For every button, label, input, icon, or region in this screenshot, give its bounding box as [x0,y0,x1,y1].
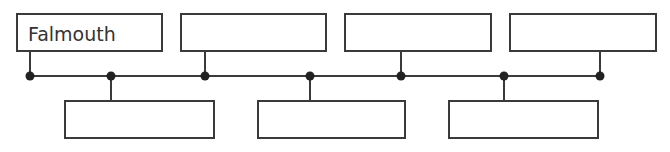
timeline-dot [397,72,406,81]
top-box-3 [344,13,492,52]
bottom-box-1 [64,100,215,139]
bottom-box-3 [448,100,599,139]
bottom-box-2 [257,100,406,139]
box-label: Falmouth [28,23,116,45]
timeline-dot [201,72,210,81]
timeline-dot [306,72,315,81]
timeline-dot [596,72,605,81]
timeline-dot [107,72,116,81]
top-box-4 [509,13,657,52]
timeline-dot [26,72,35,81]
timeline-dot [500,72,509,81]
top-box-2 [180,13,327,52]
top-box-1: Falmouth [16,13,163,52]
